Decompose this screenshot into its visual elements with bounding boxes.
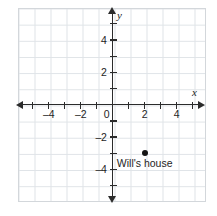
y-axis-label: y xyxy=(117,9,122,21)
x-axis-tick-label: –4 xyxy=(43,108,54,120)
x-axis-tick xyxy=(160,102,161,109)
x-axis-tick-label: 0 xyxy=(104,108,110,120)
y-axis-tick-label: –4 xyxy=(95,163,106,175)
arrow-up-icon xyxy=(108,7,116,14)
x-axis-tick-label: 4 xyxy=(174,108,180,120)
arrow-right-icon xyxy=(198,101,205,109)
x-axis-tick xyxy=(64,102,65,109)
y-axis-tick xyxy=(110,23,117,24)
y-axis-tick xyxy=(110,153,117,154)
x-axis-tick-label: –2 xyxy=(75,108,86,120)
y-axis-tick xyxy=(110,72,117,73)
x-axis-tick xyxy=(96,102,97,109)
y-axis-tick xyxy=(110,136,117,137)
y-axis-tick-label: 2 xyxy=(101,66,107,78)
x-axis-label: x xyxy=(192,86,197,98)
y-axis-tick xyxy=(110,120,117,121)
y-axis-tick-label: –2 xyxy=(95,131,106,143)
y-axis-tick xyxy=(110,169,117,170)
x-axis-tick-label: 2 xyxy=(142,108,148,120)
arrow-left-icon xyxy=(16,101,23,109)
y-axis-tick xyxy=(110,185,117,186)
y-axis-tick xyxy=(110,88,117,89)
y-axis-tick xyxy=(110,39,117,40)
y-axis-tick-label: 4 xyxy=(101,34,107,46)
x-axis-tick xyxy=(192,102,193,109)
x-axis-tick xyxy=(128,102,129,109)
data-point-marker xyxy=(142,150,148,156)
arrow-down-icon xyxy=(108,196,116,203)
x-axis-tick xyxy=(32,102,33,109)
coordinate-plane-figure: –4–202442–2–4 x y Will's house xyxy=(0,0,217,216)
data-point-annotation: Will's house xyxy=(117,157,173,169)
y-axis-tick xyxy=(110,56,117,57)
